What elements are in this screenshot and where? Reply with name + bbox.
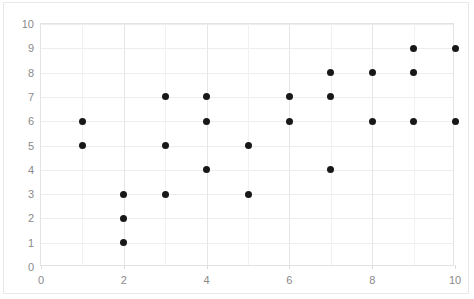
data-point xyxy=(203,118,210,125)
x-tick-mark-2 xyxy=(124,265,125,269)
gridline-x-4 xyxy=(207,24,208,265)
y-tick-label-10: 10 xyxy=(22,18,34,30)
gridline-y-9 xyxy=(41,48,453,49)
data-point xyxy=(162,142,169,149)
gridline-x-8 xyxy=(372,24,373,265)
data-point xyxy=(120,215,127,222)
chart-frame: 012345678910 0246810 xyxy=(3,2,469,294)
x-tick-label-8: 8 xyxy=(369,274,375,286)
gridline-y-8 xyxy=(41,73,453,74)
y-tick-label-4: 4 xyxy=(28,164,34,176)
data-point xyxy=(245,191,252,198)
data-point xyxy=(410,69,417,76)
chart-title xyxy=(4,0,470,4)
y-tick-label-5: 5 xyxy=(28,140,34,152)
x-tick-mark-6 xyxy=(289,265,290,269)
data-point xyxy=(203,93,210,100)
gridline-y-2 xyxy=(41,218,453,219)
x-tick-label-0: 0 xyxy=(38,274,44,286)
gridline-y-4 xyxy=(41,170,453,171)
data-point xyxy=(120,191,127,198)
data-point xyxy=(452,118,459,125)
gridline-y-7 xyxy=(41,97,453,98)
plot-area: 012345678910 0246810 xyxy=(40,23,454,266)
data-point xyxy=(327,93,334,100)
x-tick-label-6: 6 xyxy=(286,274,292,286)
x-tick-mark-10 xyxy=(455,265,456,269)
data-point xyxy=(162,93,169,100)
x-tick-mark-4 xyxy=(207,265,208,269)
y-tick-label-3: 3 xyxy=(28,188,34,200)
data-point xyxy=(327,69,334,76)
data-point xyxy=(327,166,334,173)
data-point xyxy=(203,166,210,173)
y-tick-label-9: 9 xyxy=(28,42,34,54)
y-tick-label-1: 1 xyxy=(28,237,34,249)
data-point xyxy=(79,118,86,125)
data-point xyxy=(120,239,127,246)
x-tick-label-10: 10 xyxy=(449,274,461,286)
data-point xyxy=(286,118,293,125)
y-tick-label-0: 0 xyxy=(28,261,34,273)
gridline-x-minor-7 xyxy=(331,24,332,265)
gridline-x-2 xyxy=(124,24,125,265)
data-point xyxy=(245,142,252,149)
x-tick-label-2: 2 xyxy=(121,274,127,286)
data-point xyxy=(79,142,86,149)
gridline-y-10 xyxy=(41,24,453,25)
data-point xyxy=(369,118,376,125)
y-tick-label-6: 6 xyxy=(28,115,34,127)
data-point xyxy=(369,69,376,76)
gridline-x-minor-9 xyxy=(414,24,415,265)
data-point xyxy=(452,45,459,52)
data-point xyxy=(162,191,169,198)
x-tick-mark-8 xyxy=(372,265,373,269)
data-point xyxy=(410,45,417,52)
x-tick-label-4: 4 xyxy=(204,274,210,286)
y-tick-label-8: 8 xyxy=(28,67,34,79)
y-tick-label-7: 7 xyxy=(28,91,34,103)
data-point xyxy=(286,93,293,100)
data-point xyxy=(410,118,417,125)
y-tick-label-2: 2 xyxy=(28,212,34,224)
x-tick-mark-0 xyxy=(41,265,42,269)
gridline-y-1 xyxy=(41,243,453,244)
gridline-x-6 xyxy=(289,24,290,265)
gridline-y-6 xyxy=(41,121,453,122)
